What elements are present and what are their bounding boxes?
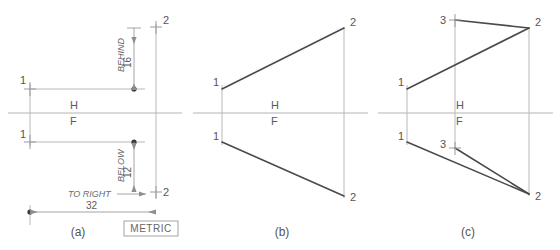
panel-c: H F 3 3 1 1 2 2 (c) bbox=[378, 14, 553, 239]
panel-a-behind-arrow-up bbox=[131, 37, 136, 44]
engineering-drawing-svg: H F 1 1 2 2 bbox=[0, 0, 560, 250]
panel-a-point-label-1-top: 1 bbox=[20, 74, 26, 86]
panel-c-caption: (c) bbox=[461, 225, 475, 239]
panel-c-front-view-line-2-3 bbox=[455, 148, 529, 194]
panel-c-point-label-3-top: 3 bbox=[440, 14, 446, 26]
panel-a-point-label-1-bottom: 1 bbox=[20, 128, 26, 140]
panel-a-caption: (a) bbox=[71, 225, 86, 239]
panel-a-32-value: 32 bbox=[86, 200, 98, 211]
panel-c-point-label-3-bottom: 3 bbox=[440, 138, 446, 150]
figure-root: H F 1 1 2 2 bbox=[0, 0, 560, 250]
panel-b-caption: (b) bbox=[275, 225, 290, 239]
panel-a-behind-value: 16 bbox=[122, 56, 133, 68]
panel-a-dimension-below: BELOW 12 bbox=[116, 142, 137, 192]
panel-a-below-value: 12 bbox=[122, 166, 133, 178]
panel-a-dimension-32: 32 bbox=[30, 200, 156, 215]
panel-a-point-label-2-top: 2 bbox=[163, 14, 169, 26]
panel-c-point-label-1-bottom: 1 bbox=[398, 130, 404, 142]
panel-a-to-right-arrow bbox=[139, 191, 146, 196]
panel-c-point-label-2-bottom: 2 bbox=[535, 190, 541, 202]
panel-b-point-label-2-top: 2 bbox=[350, 16, 356, 28]
panel-a: H F 1 1 2 2 bbox=[8, 14, 182, 239]
panel-a-to-right-label: TO RIGHT bbox=[68, 189, 112, 199]
panel-c-point-label-2-top: 2 bbox=[535, 16, 541, 28]
metric-badge: METRIC bbox=[124, 221, 178, 236]
panel-b-fold-label-h: H bbox=[271, 99, 279, 111]
panel-a-below-arrow-down bbox=[131, 185, 136, 192]
panel-a-dimension-behind: BEHIND 16 bbox=[116, 28, 141, 90]
panel-a-32-arrow-right bbox=[148, 209, 156, 214]
panel-c-fold-label-f: F bbox=[456, 115, 463, 127]
panel-b-front-view-line bbox=[222, 142, 344, 196]
panel-c-front-view-line-1-2 bbox=[407, 142, 529, 194]
panel-a-32-arrow-left bbox=[30, 209, 38, 214]
panel-c-top-view-line-2-3 bbox=[455, 20, 529, 28]
panel-b: H F 1 1 2 2 (b) bbox=[193, 16, 368, 239]
panel-b-point-label-1-top: 1 bbox=[213, 76, 219, 88]
metric-badge-label: METRIC bbox=[130, 223, 171, 234]
panel-c-point-label-1-top: 1 bbox=[398, 76, 404, 88]
panel-c-fold-label-h: H bbox=[456, 99, 464, 111]
panel-a-fold-label-f: F bbox=[70, 115, 77, 127]
panel-b-top-view-line bbox=[222, 28, 344, 89]
panel-c-top-view-line-1-2 bbox=[407, 28, 529, 89]
panel-b-point-label-1-bottom: 1 bbox=[213, 130, 219, 142]
panel-b-point-label-2-bottom: 2 bbox=[350, 191, 356, 203]
panel-a-behind-arrow-down bbox=[131, 83, 136, 90]
panel-a-below-arrow-up bbox=[131, 143, 136, 150]
panel-b-fold-label-f: F bbox=[271, 115, 278, 127]
panel-a-point-label-2-bottom: 2 bbox=[163, 186, 169, 198]
panel-a-fold-label-h: H bbox=[70, 99, 78, 111]
